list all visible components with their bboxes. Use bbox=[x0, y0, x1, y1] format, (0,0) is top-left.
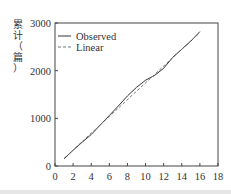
x-tick-label: 12 bbox=[158, 171, 169, 182]
y-axis-label: （ bbox=[13, 41, 23, 52]
legend-observed-label: Observed bbox=[76, 31, 117, 42]
x-tick-label: 0 bbox=[52, 171, 57, 182]
y-tick-label: 3000 bbox=[30, 18, 51, 29]
x-tick-label: 16 bbox=[195, 171, 206, 182]
y-axis-label: 篇 bbox=[13, 51, 23, 63]
x-tick-label: 18 bbox=[213, 171, 224, 182]
x-tick-label: 2 bbox=[70, 171, 75, 182]
cut-off-caption bbox=[0, 190, 231, 194]
x-tick-label: 6 bbox=[107, 171, 112, 182]
x-tick-label: 10 bbox=[140, 171, 151, 182]
y-axis-label: 累 bbox=[13, 19, 23, 30]
y-tick-label: 0 bbox=[46, 161, 51, 172]
x-tick-label: 14 bbox=[177, 171, 188, 182]
y-axis-label: ） bbox=[13, 63, 23, 74]
y-tick-label: 2000 bbox=[30, 66, 51, 77]
y-tick-label: 1000 bbox=[30, 113, 51, 124]
x-tick-label: 4 bbox=[89, 171, 95, 182]
y-axis-label: 计 bbox=[13, 29, 23, 41]
legend-linear-label: Linear bbox=[76, 42, 104, 53]
chart: 0246810121416180100020003000累计（篇）Observe… bbox=[0, 0, 231, 194]
x-tick-label: 8 bbox=[125, 171, 130, 182]
